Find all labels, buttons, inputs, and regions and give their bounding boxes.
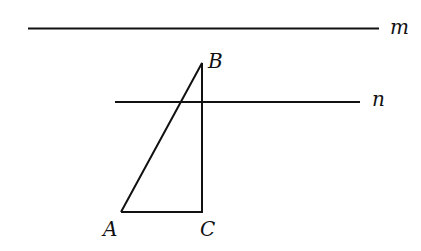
label-m: m <box>390 15 409 39</box>
geometry-diagram: m n B A C <box>0 0 421 251</box>
label-n: n <box>372 87 385 111</box>
label-c: C <box>200 217 215 241</box>
triangle-abc <box>121 63 202 212</box>
label-a: A <box>101 217 117 241</box>
label-b: B <box>207 49 223 73</box>
